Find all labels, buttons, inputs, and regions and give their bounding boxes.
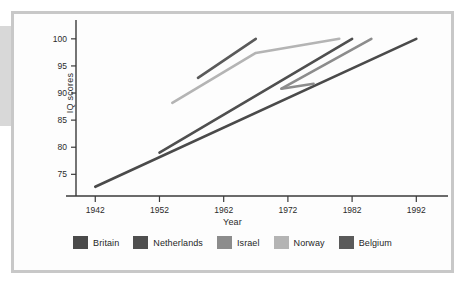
legend-item-netherlands[interactable]: Netherlands [133, 236, 203, 249]
legend-item-israel[interactable]: Israel [217, 236, 260, 249]
y-axis-tick-label: 80 [58, 142, 68, 152]
x-axis-tick-label: 1942 [86, 205, 105, 215]
legend-swatch-israel [217, 236, 232, 249]
figure-page: 7580859095100194219521962197219821992 IQ… [0, 0, 467, 285]
legend-label: Britain [93, 238, 119, 248]
legend-swatch-netherlands [133, 236, 148, 249]
y-axis-title: IQ scores [65, 53, 75, 133]
legend-label: Norway [294, 238, 325, 248]
legend-swatch-britain [73, 236, 88, 249]
legend-item-norway[interactable]: Norway [274, 236, 325, 249]
line-chart-svg: 7580859095100194219521962197219821992 [14, 14, 451, 228]
y-axis-tick-label: 75 [58, 169, 68, 179]
chart-plot-area: 7580859095100194219521962197219821992 [14, 14, 451, 228]
page-top-margin [0, 0, 467, 9]
y-axis-tick-label: 100 [53, 34, 67, 44]
figure-inner: 7580859095100194219521962197219821992 IQ… [14, 14, 451, 270]
legend-label: Netherlands [153, 238, 203, 248]
x-axis-title: Year [14, 217, 451, 227]
series-line-netherlands [159, 39, 352, 153]
x-axis-tick-label: 1972 [278, 205, 297, 215]
figure-frame: 7580859095100194219521962197219821992 IQ… [11, 11, 454, 273]
legend-label: Belgium [359, 238, 392, 248]
x-axis-tick-label: 1992 [407, 205, 426, 215]
legend-label: Israel [237, 238, 260, 248]
x-axis-tick-label: 1962 [214, 205, 233, 215]
series-line-britain [95, 39, 416, 187]
chart-legend: BritainNetherlandsIsraelNorwayBelgium [14, 236, 451, 249]
x-axis-tick-label: 1982 [343, 205, 362, 215]
legend-item-belgium[interactable]: Belgium [339, 236, 392, 249]
legend-item-britain[interactable]: Britain [73, 236, 119, 249]
legend-swatch-belgium [339, 236, 354, 249]
x-axis-tick-label: 1952 [150, 205, 169, 215]
legend-swatch-norway [274, 236, 289, 249]
